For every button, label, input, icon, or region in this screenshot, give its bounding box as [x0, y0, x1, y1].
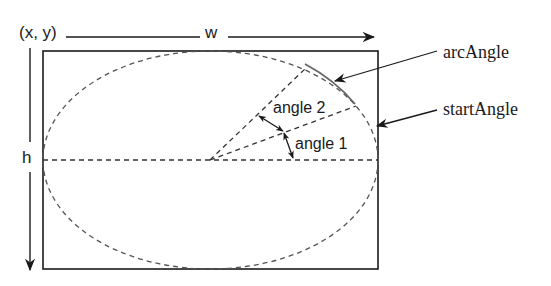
width-label: w — [204, 23, 218, 42]
arc-diagram: (x, y) w h angle 2 angle 1 arcAngle star… — [0, 0, 551, 286]
arcangle-label: arcAngle — [443, 42, 509, 62]
angle1-label: angle 1 — [295, 135, 348, 152]
angle2-arrow — [259, 116, 283, 131]
height-label: h — [22, 148, 31, 167]
arcangle-pointer-arrow — [335, 51, 437, 81]
startangle-pointer-arrow — [377, 110, 437, 126]
angle2-label: angle 2 — [273, 99, 326, 116]
origin-label: (x, y) — [19, 23, 57, 42]
angle1-arrow — [284, 133, 293, 158]
startangle-label: startAngle — [443, 99, 518, 119]
